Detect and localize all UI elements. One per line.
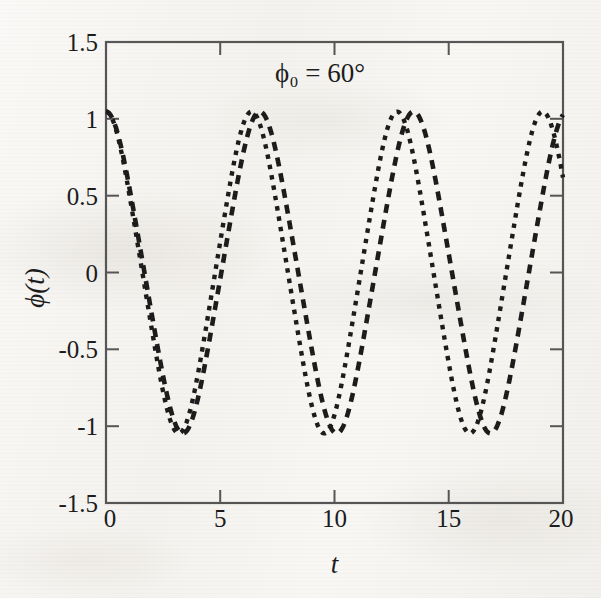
y-axis-ticks bbox=[106, 42, 563, 503]
data-curves bbox=[106, 112, 563, 434]
curve-dotted-short bbox=[106, 112, 563, 434]
y-tick-label: -0.5 bbox=[58, 336, 98, 363]
annotation-phi0: ϕ₀ = 60° bbox=[275, 58, 365, 88]
y-tick-label: 0.5 bbox=[67, 183, 98, 210]
y-axis-label: ϕ(t) bbox=[20, 268, 50, 307]
y-tick-label: -1.5 bbox=[58, 490, 98, 517]
x-tick-label: 20 bbox=[549, 505, 574, 532]
curve-dashed-long bbox=[106, 112, 563, 434]
x-tick-label: 10 bbox=[322, 505, 347, 532]
x-tick-label: 0 bbox=[104, 505, 117, 532]
y-tick-labels: 1.5 1 0.5 0 -0.5 -1 -1.5 bbox=[58, 29, 98, 517]
y-tick-label: 1.5 bbox=[67, 29, 98, 56]
x-tick-labels: 0 5 10 15 20 bbox=[104, 505, 574, 532]
x-tick-label: 5 bbox=[214, 505, 227, 532]
figure-container: 1.5 1 0.5 0 -0.5 -1 -1.5 0 5 10 15 20 t … bbox=[0, 0, 601, 598]
y-tick-label: 1 bbox=[86, 106, 99, 133]
x-axis-ticks bbox=[220, 42, 449, 503]
plot-frame bbox=[106, 42, 563, 503]
x-tick-label: 15 bbox=[436, 505, 461, 532]
y-tick-label: 0 bbox=[86, 260, 99, 287]
x-axis-label: t bbox=[331, 549, 340, 579]
y-tick-label: -1 bbox=[77, 413, 98, 440]
